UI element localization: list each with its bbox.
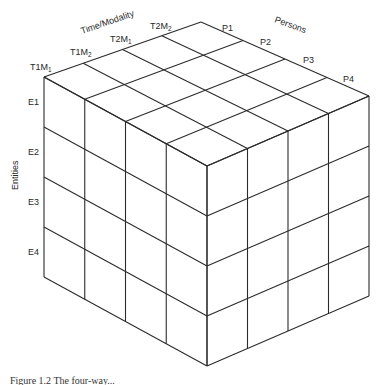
top-grid-line: [83, 63, 247, 148]
persons-label: P1: [222, 23, 233, 33]
time-modality-label: T1M2: [70, 47, 92, 58]
cube-grid-lines: [44, 22, 369, 366]
axis-title-entities: Entities: [10, 160, 20, 190]
time-modality-label: T2M1: [110, 34, 132, 45]
entities-label: E4: [28, 247, 39, 257]
top-grid-line: [126, 59, 286, 122]
persons-label: P2: [260, 37, 271, 47]
top-grid-line: [166, 78, 327, 144]
entities-label: E3: [28, 197, 39, 207]
axis-title-persons: Persons: [273, 14, 308, 35]
time-modality-label: T1M1: [30, 62, 52, 73]
entities-labels: E1E2E3E4: [28, 97, 39, 257]
axis-title-time-modality: Time/Modality: [79, 8, 135, 36]
persons-labels: P1P2P3P4: [222, 23, 354, 84]
persons-label: P4: [343, 74, 354, 84]
figure-caption: Figure 1.2 The four-way...: [10, 375, 115, 385]
time-modality-label: T2M2: [150, 21, 172, 32]
entities-label: E1: [28, 97, 39, 107]
entities-label: E2: [28, 147, 39, 157]
data-cube-diagram: Time/Modality T1M1T1M2T2M1T2M2 Persons P…: [0, 0, 377, 385]
persons-label: P3: [303, 55, 314, 65]
